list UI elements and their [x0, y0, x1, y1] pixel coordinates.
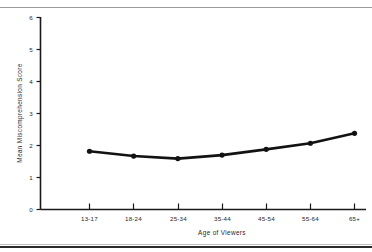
x-tick-label: 13-17 — [81, 215, 98, 222]
y-tick-label: 1 — [29, 174, 33, 181]
y-axis-title: Mean Miscomprehension Score — [16, 63, 24, 162]
y-tick-label: 0 — [29, 206, 33, 213]
x-tick-label: 25-34 — [170, 215, 187, 222]
chart-canvas: 0 1 2 3 4 5 6 13-17 18-24 — [0, 8, 372, 244]
x-tick-label: 45-54 — [258, 215, 275, 222]
data-point — [219, 153, 224, 158]
y-tick-label: 2 — [29, 142, 33, 149]
x-tick-label: 18-24 — [125, 215, 142, 222]
x-axis-title: Age of Viewers — [198, 229, 246, 237]
x-axis-tick-labels: 13-17 18-24 25-34 35-44 45-54 55-64 65+ — [81, 215, 360, 222]
line-chart: 0 1 2 3 4 5 6 13-17 18-24 — [0, 8, 372, 244]
y-tick-label: 6 — [29, 14, 33, 21]
y-tick-label: 3 — [29, 110, 33, 117]
y-tick-label: 4 — [29, 78, 33, 85]
figure-page: 0 1 2 3 4 5 6 13-17 18-24 — [0, 0, 372, 252]
y-tick-label: 5 — [29, 46, 33, 53]
page-rule-bottom-light — [0, 244, 372, 245]
data-point — [175, 156, 180, 161]
data-point — [264, 147, 269, 152]
x-tick-label: 55-64 — [302, 215, 319, 222]
y-axis-tick-labels: 0 1 2 3 4 5 6 — [29, 14, 33, 213]
x-tick-label: 65+ — [349, 215, 360, 222]
x-axis-ticks — [90, 204, 355, 210]
data-point — [352, 131, 357, 136]
data-point — [87, 149, 92, 154]
data-point — [131, 153, 136, 158]
x-tick-label: 35-44 — [214, 215, 231, 222]
data-point — [308, 141, 313, 146]
page-rule-bottom — [0, 246, 372, 248]
